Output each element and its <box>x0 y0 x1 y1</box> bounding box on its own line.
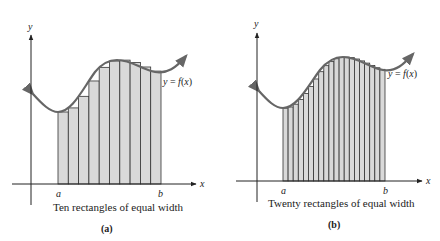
rectangle <box>140 67 150 184</box>
rectangles-b <box>283 57 385 181</box>
y-axis-label-a: y <box>27 21 33 32</box>
rectangle <box>303 93 308 181</box>
rectangle <box>68 108 78 184</box>
rectangle <box>314 79 319 181</box>
curve-label-a: y = f(x) <box>162 76 192 88</box>
rectangles-a <box>58 60 161 184</box>
rectangle <box>344 57 349 181</box>
rectangle <box>349 58 354 181</box>
rectangle <box>339 57 344 181</box>
caption-b: Twenty rectangles of equal width <box>268 197 415 209</box>
rectangle <box>375 68 380 181</box>
rectangle <box>298 100 303 181</box>
rectangle <box>99 67 109 184</box>
rectangle <box>120 60 130 184</box>
panel-a: y x a b y = f(x) Ten rectangles of equal… <box>12 21 205 235</box>
rectangle <box>309 87 314 181</box>
rectangle <box>293 104 298 181</box>
y-axis-label-b: y <box>253 18 259 29</box>
rectangle <box>288 107 293 181</box>
b-label-b: b <box>383 185 388 196</box>
rectangle <box>283 108 288 181</box>
rectangle <box>365 63 370 181</box>
rectangle <box>89 81 99 184</box>
rectangle <box>110 61 120 184</box>
figure: y x a b y = f(x) Ten rectangles of equal… <box>0 0 440 241</box>
x-axis-label-b: x <box>425 175 431 186</box>
rectangle <box>319 72 324 181</box>
panel-b: y x a b y = f(x) Twenty rectangles of eq… <box>236 18 431 231</box>
x-axis-label-a: x <box>199 178 205 189</box>
sublabel-b: (b) <box>328 219 340 231</box>
curve-label-b: y = f(x) <box>387 68 417 80</box>
rectangle <box>324 66 329 181</box>
rectangle <box>130 62 140 184</box>
rectangle <box>370 66 375 181</box>
rectangle <box>151 71 161 184</box>
rectangle <box>360 61 365 181</box>
sublabel-a: (a) <box>101 223 113 235</box>
rectangle <box>354 59 359 181</box>
a-label-a: a <box>56 188 61 199</box>
a-label-b: a <box>281 185 286 196</box>
rectangle <box>334 59 339 181</box>
rectangle <box>329 62 334 181</box>
rectangle <box>380 69 385 181</box>
rectangle <box>79 96 89 184</box>
caption-a: Ten rectangles of equal width <box>53 201 183 213</box>
b-label-a: b <box>158 188 163 199</box>
rectangle <box>58 112 68 184</box>
